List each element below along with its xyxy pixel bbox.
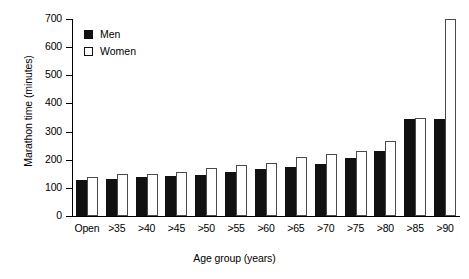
y-tick-label: 700 bbox=[22, 13, 62, 23]
legend-item-men: Men bbox=[84, 29, 136, 39]
bar-women bbox=[117, 174, 128, 216]
bar-men bbox=[195, 175, 206, 216]
legend-swatch-men-icon bbox=[84, 30, 93, 39]
bar-women bbox=[296, 157, 307, 216]
legend-swatch-women-icon bbox=[84, 47, 93, 56]
bar-women bbox=[236, 165, 247, 216]
x-tick-label: >55 bbox=[221, 222, 251, 234]
bar-men bbox=[106, 179, 117, 216]
bar-women bbox=[176, 172, 187, 216]
bar-men bbox=[374, 151, 385, 216]
bar-men bbox=[76, 180, 87, 216]
bar-men bbox=[165, 176, 176, 216]
y-tick-label: 0 bbox=[22, 210, 62, 220]
y-tick-label: 100 bbox=[22, 182, 62, 192]
bar-women bbox=[87, 177, 98, 216]
bar-group bbox=[400, 118, 430, 216]
x-tick-label: >40 bbox=[132, 222, 162, 234]
x-tick-label: >35 bbox=[102, 222, 132, 234]
x-tick-label: >80 bbox=[370, 222, 400, 234]
bar-group bbox=[370, 141, 400, 216]
bar-group bbox=[430, 19, 460, 216]
x-tick-label: Open bbox=[72, 222, 102, 234]
bar-group bbox=[162, 172, 192, 216]
bar-group bbox=[311, 154, 341, 216]
y-tick-label: 400 bbox=[22, 97, 62, 107]
bar-group bbox=[132, 174, 162, 216]
bar-women bbox=[266, 163, 277, 216]
x-tick-label: >65 bbox=[281, 222, 311, 234]
bar-women bbox=[445, 19, 456, 216]
bar-women bbox=[415, 118, 426, 216]
y-tick-label: 200 bbox=[22, 154, 62, 164]
bar-group bbox=[72, 177, 102, 216]
bar-women bbox=[326, 154, 337, 216]
bar-group bbox=[191, 168, 221, 216]
legend-label-men: Men bbox=[100, 29, 120, 39]
bar-men bbox=[136, 177, 147, 216]
bar-group bbox=[102, 174, 132, 216]
x-tick-label: >85 bbox=[400, 222, 430, 234]
bar-men bbox=[285, 167, 296, 216]
bar-chart: Marathon time (minutes) 0100200300400500… bbox=[0, 0, 469, 279]
bar-men bbox=[315, 164, 326, 216]
bar-women bbox=[147, 174, 158, 216]
bar-group bbox=[221, 165, 251, 216]
y-tick-mark bbox=[66, 216, 72, 217]
bar-group bbox=[281, 157, 311, 216]
x-tick-label: >90 bbox=[430, 222, 460, 234]
x-tick-label: >70 bbox=[311, 222, 341, 234]
legend-label-women: Women bbox=[100, 46, 136, 56]
bar-men bbox=[225, 172, 236, 216]
y-tick-label: 600 bbox=[22, 41, 62, 51]
bar-group bbox=[341, 151, 371, 216]
bar-men bbox=[434, 119, 445, 216]
bar-men bbox=[345, 158, 356, 216]
x-tick-label: >50 bbox=[191, 222, 221, 234]
bar-men bbox=[255, 169, 266, 216]
x-axis-line bbox=[72, 216, 460, 217]
legend: Men Women bbox=[84, 29, 136, 63]
bar-women bbox=[385, 141, 396, 216]
x-tick-label: >60 bbox=[251, 222, 281, 234]
bar-women bbox=[206, 168, 217, 216]
bar-women bbox=[356, 151, 367, 216]
x-tick-label: >75 bbox=[341, 222, 371, 234]
bar-group bbox=[251, 163, 281, 216]
y-tick-label: 500 bbox=[22, 69, 62, 79]
x-tick-label: >45 bbox=[162, 222, 192, 234]
x-axis-title: Age group (years) bbox=[0, 252, 469, 264]
bar-men bbox=[404, 119, 415, 216]
y-tick-label: 300 bbox=[22, 126, 62, 136]
legend-item-women: Women bbox=[84, 46, 136, 56]
